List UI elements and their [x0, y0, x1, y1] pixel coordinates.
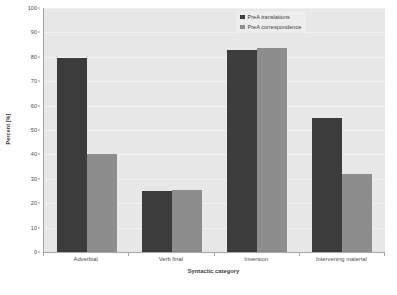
y-axis-tick-label: 40 — [31, 151, 37, 157]
y-axis-tick-label: 50 — [31, 127, 37, 133]
legend-swatch-icon — [240, 15, 245, 20]
y-axis-tick-label: 100 — [28, 5, 37, 11]
legend-label: PreA correspondence — [248, 24, 302, 30]
y-axis-title: Percent [%] — [0, 0, 16, 258]
legend-entry[interactable]: PreA correspondence — [240, 24, 301, 30]
y-axis-tick-label: 20 — [31, 200, 37, 206]
y-axis-tick-mark — [38, 178, 41, 179]
y-axis-tick-mark — [38, 56, 41, 57]
x-axis-title: Syntactic category — [43, 268, 384, 274]
legend-entry[interactable]: PreA translations — [240, 14, 301, 20]
y-axis-tick-label: 90 — [31, 29, 37, 35]
x-axis-tick-label: Verb final — [128, 256, 213, 268]
y-axis-tick-label: 30 — [31, 176, 37, 182]
bar-group — [300, 8, 385, 252]
bar-group — [129, 8, 214, 252]
bars-layer — [44, 8, 385, 252]
bar[interactable] — [312, 118, 342, 252]
plot-area — [43, 8, 385, 253]
bar[interactable] — [142, 191, 172, 252]
x-axis-tick-labels: AdverbialVerb finalInversionIntervening … — [43, 256, 384, 268]
legend-label: PreA translations — [248, 14, 290, 20]
bar[interactable] — [87, 154, 117, 252]
x-axis-tick-label: Adverbial — [43, 256, 128, 268]
bar-group — [215, 8, 300, 252]
bar[interactable] — [57, 58, 87, 252]
y-axis-tick-mark — [38, 154, 41, 155]
y-axis-tick-mark — [38, 252, 41, 253]
y-axis-tick-label: 10 — [31, 225, 37, 231]
y-axis-tick-mark — [38, 227, 41, 228]
chart-legend: PreA translationsPreA correspondence — [236, 11, 306, 33]
legend-swatch-icon — [240, 25, 245, 30]
x-axis-tick-label: Intervening material — [299, 256, 384, 268]
bar[interactable] — [257, 48, 287, 252]
bar[interactable] — [227, 50, 257, 252]
y-axis-tick-label: 70 — [31, 78, 37, 84]
y-axis-tick-mark — [38, 8, 41, 9]
y-axis-tick-mark — [38, 105, 41, 106]
x-axis-tick-label: Inversion — [214, 256, 299, 268]
bar-group — [44, 8, 129, 252]
y-axis-tick-label: 80 — [31, 54, 37, 60]
bar-chart-figure: Percent [%] 0102030405060708090100 PreA … — [0, 0, 397, 295]
y-axis-tick-mark — [38, 81, 41, 82]
y-axis-title-text: Percent [%] — [5, 114, 11, 145]
y-axis-tick-mark — [38, 130, 41, 131]
x-axis-tick-mark — [384, 253, 385, 256]
y-axis-tick-mark — [38, 32, 41, 33]
y-axis-tick-label: 60 — [31, 103, 37, 109]
y-axis-tick-labels: 0102030405060708090100 — [16, 8, 40, 252]
y-axis-tick-mark — [38, 203, 41, 204]
bar[interactable] — [172, 190, 202, 252]
bar[interactable] — [342, 174, 372, 252]
